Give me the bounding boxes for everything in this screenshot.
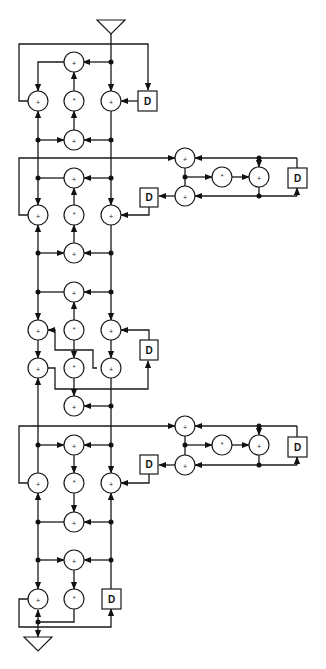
svg-text:+: + bbox=[257, 175, 261, 182]
svg-text:+: + bbox=[36, 99, 40, 106]
output-port-triangle-icon bbox=[24, 637, 52, 651]
svg-text:+: + bbox=[109, 99, 113, 106]
svg-text:+: + bbox=[36, 366, 40, 373]
svg-text:+: + bbox=[257, 443, 261, 450]
svg-text:+: + bbox=[109, 366, 113, 373]
svg-text:+: + bbox=[183, 424, 187, 431]
svg-text:D: D bbox=[144, 96, 151, 107]
input-port-triangle-icon bbox=[97, 20, 125, 34]
svg-text:+: + bbox=[72, 520, 76, 527]
svg-text:*: * bbox=[73, 97, 76, 104]
svg-text:D: D bbox=[294, 173, 301, 184]
svg-text:+: + bbox=[36, 481, 40, 488]
svg-text:+: + bbox=[72, 176, 76, 183]
svg-text:D: D bbox=[145, 192, 152, 203]
svg-text:*: * bbox=[221, 441, 224, 448]
section-5: + + * D bbox=[19, 550, 121, 637]
svg-text:+: + bbox=[36, 328, 40, 335]
svg-text:+: + bbox=[72, 290, 76, 297]
svg-text:+: + bbox=[183, 463, 187, 470]
svg-text:+: + bbox=[183, 194, 187, 201]
svg-text:+: + bbox=[36, 597, 40, 604]
svg-text:+: + bbox=[109, 213, 113, 220]
svg-text:*: * bbox=[73, 595, 76, 602]
svg-text:D: D bbox=[108, 594, 115, 605]
svg-text:D: D bbox=[145, 459, 152, 470]
signal-flow-diagram: + + * + + D bbox=[0, 0, 326, 669]
svg-text:+: + bbox=[72, 251, 76, 258]
svg-text:+: + bbox=[72, 60, 76, 67]
svg-text:*: * bbox=[73, 326, 76, 333]
svg-text:+: + bbox=[183, 156, 187, 163]
svg-text:+: + bbox=[109, 481, 113, 488]
svg-text:*: * bbox=[73, 364, 76, 371]
svg-text:+: + bbox=[72, 558, 76, 565]
section-2: + + * + + + * + + D D bbox=[19, 148, 307, 320]
svg-text:+: + bbox=[36, 213, 40, 220]
svg-text:+: + bbox=[72, 138, 76, 145]
svg-text:D: D bbox=[294, 442, 301, 453]
svg-text:*: * bbox=[221, 173, 224, 180]
svg-text:+: + bbox=[109, 328, 113, 335]
svg-text:D: D bbox=[145, 345, 152, 356]
svg-text:*: * bbox=[73, 211, 76, 218]
svg-text:+: + bbox=[72, 404, 76, 411]
section-4: + + * + + + * + + D D bbox=[19, 416, 307, 589]
svg-text:*: * bbox=[73, 479, 76, 486]
svg-text:+: + bbox=[72, 443, 76, 450]
